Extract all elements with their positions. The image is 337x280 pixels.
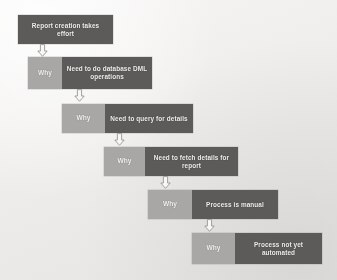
why-label-2: Why [62, 104, 105, 133]
why-label-4: Why [148, 190, 192, 219]
arrow-down-icon-2 [74, 89, 85, 102]
answer-box-1: Need to do database DML operations [62, 57, 152, 89]
why-row-4: Why Process is manual [148, 190, 278, 219]
arrow-down-icon-3 [114, 133, 125, 146]
why-row-3: Why Need to fetch details for report [104, 147, 238, 176]
arrow-down-icon-4 [160, 176, 171, 189]
why-label-5: Why [192, 233, 235, 264]
why-label-3: Why [104, 147, 145, 176]
why-row-5: Why Process not yet automated [192, 233, 322, 264]
answer-box-4: Process is manual [192, 190, 278, 219]
answer-box-5: Process not yet automated [235, 233, 322, 264]
arrow-down-icon-5 [204, 219, 215, 232]
problem-statement-box: Report creation takes effort [18, 15, 113, 44]
why-row-1: Why Need to do database DML operations [28, 57, 152, 89]
why-label-1: Why [28, 57, 62, 89]
why-row-2: Why Need to query for details [62, 104, 193, 133]
answer-box-2: Need to query for details [105, 104, 193, 133]
problem-statement-row: Report creation takes effort [18, 15, 113, 44]
answer-box-3: Need to fetch details for report [145, 147, 238, 176]
five-whys-diagram: Report creation takes effort Why Need to… [0, 0, 337, 280]
arrow-down-icon-1 [37, 44, 48, 57]
